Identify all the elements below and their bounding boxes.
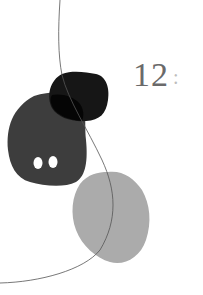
blob-hole	[49, 156, 58, 168]
number-label: 12	[133, 58, 169, 92]
separator-mark: :	[173, 67, 179, 87]
blob-hole	[34, 157, 43, 169]
abstract-artwork	[0, 0, 203, 295]
